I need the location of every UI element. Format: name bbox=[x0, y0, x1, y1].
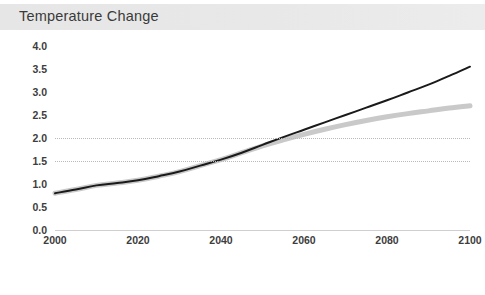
y-tick-label: 4.0 bbox=[17, 40, 47, 52]
x-tick-label: 2060 bbox=[282, 234, 326, 246]
plot-area bbox=[55, 46, 470, 230]
series-line-mitigation bbox=[55, 106, 470, 193]
x-tick-label: 2020 bbox=[116, 234, 160, 246]
x-tick-label: 2100 bbox=[448, 234, 485, 246]
y-tick-label: 0.5 bbox=[17, 201, 47, 213]
y-tick-label: 1.5 bbox=[17, 155, 47, 167]
y-tick-label: 3.0 bbox=[17, 86, 47, 98]
x-tick-label: 2080 bbox=[365, 234, 409, 246]
y-tick-label: 3.5 bbox=[17, 63, 47, 75]
series-line-high-emissions bbox=[55, 67, 470, 194]
gridline bbox=[55, 161, 470, 162]
gridline bbox=[55, 138, 470, 139]
x-tick-label: 2040 bbox=[199, 234, 243, 246]
x-tick-label: 2000 bbox=[33, 234, 77, 246]
y-tick-label: 2.5 bbox=[17, 109, 47, 121]
y-tick-label: 2.0 bbox=[17, 132, 47, 144]
page-title: Temperature Change bbox=[19, 8, 159, 24]
y-tick-label: 1.0 bbox=[17, 178, 47, 190]
temperature-change-chart: Temperature Change Degrees Celsius 0.00.… bbox=[0, 0, 485, 295]
x-axis-line bbox=[55, 230, 470, 231]
